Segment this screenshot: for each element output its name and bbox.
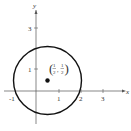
svg-text:2: 2 <box>53 70 56 75</box>
svg-text:,: , <box>57 67 59 73</box>
x-tick-2: 2 <box>79 95 83 103</box>
graph-svg: x y -1 1 2 3 1 3 ( 1 2 , 1 2 ) <box>0 0 131 131</box>
center-point-label: ( 1 2 , 1 2 ) <box>49 61 69 76</box>
center-point <box>45 78 49 82</box>
x-tick-3: 3 <box>101 95 105 103</box>
coordinate-plane: x y -1 1 2 3 1 3 ( 1 2 , 1 2 ) <box>0 0 131 131</box>
x-tick-1: 1 <box>57 95 61 103</box>
y-tick-3: 3 <box>28 25 32 33</box>
x-axis-label: x <box>125 88 130 96</box>
svg-text:): ) <box>65 61 69 76</box>
y-tick-1: 1 <box>28 66 32 74</box>
y-axis-label: y <box>32 2 37 10</box>
y-axis-arrow-icon <box>35 10 38 14</box>
svg-text:1: 1 <box>53 63 56 68</box>
x-tick-neg1: -1 <box>9 95 15 103</box>
